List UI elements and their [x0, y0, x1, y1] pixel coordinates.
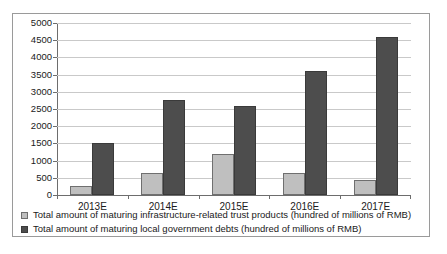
bar: [212, 154, 234, 195]
bar: [141, 173, 163, 195]
bar-group: [340, 23, 411, 195]
bar: [305, 71, 327, 195]
bar: [354, 180, 376, 195]
bar: [376, 37, 398, 195]
category-tick-mark: [410, 195, 411, 199]
category-tick-mark: [128, 195, 129, 199]
chart-legend: Total amount of maturing infrastructure-…: [19, 208, 425, 236]
bar: [92, 143, 114, 195]
light-gray-swatch-icon: [21, 212, 28, 219]
bar: [283, 173, 305, 195]
y-axis-tick-marks: [13, 23, 61, 195]
legend-item: Total amount of maturing local governmen…: [19, 222, 425, 236]
legend-item: Total amount of maturing infrastructure-…: [19, 208, 425, 222]
bar-group: [269, 23, 340, 195]
bar: [163, 100, 185, 195]
dark-gray-swatch-icon: [21, 226, 28, 233]
bar: [70, 186, 92, 195]
category-tick-mark: [340, 195, 341, 199]
bar-group: [199, 23, 270, 195]
category-tick-mark: [57, 195, 58, 199]
legend-item-label: Total amount of maturing local governmen…: [33, 224, 361, 234]
legend-item-label: Total amount of maturing infrastructure-…: [33, 210, 411, 220]
plot-area: [57, 23, 411, 195]
bar-group: [57, 23, 128, 195]
bar-group: [128, 23, 199, 195]
category-tick-mark: [199, 195, 200, 199]
chart-frame: 0500100015002000250030003500400045005000…: [12, 13, 430, 237]
bar: [234, 106, 256, 195]
category-tick-mark: [269, 195, 270, 199]
